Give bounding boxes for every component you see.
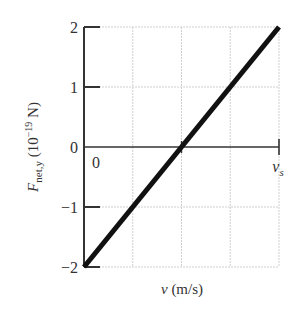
y-tick-label: 0 bbox=[70, 139, 78, 156]
y-tick-label: 1 bbox=[70, 79, 78, 96]
x-tick-label: vs bbox=[272, 158, 283, 178]
y-tick-label: −1 bbox=[61, 199, 78, 216]
y-tick-label: −2 bbox=[61, 259, 78, 276]
chart: 210−1−20vs v (m/s) Fnet,y (10−19 N) bbox=[0, 0, 301, 314]
x-axis-label: v (m/s) bbox=[161, 281, 203, 298]
x-tick-label: 0 bbox=[92, 154, 100, 171]
y-axis-label: Fnet,y (10−19 N) bbox=[23, 102, 44, 193]
y-tick-label: 2 bbox=[70, 19, 78, 36]
labels: v (m/s) Fnet,y (10−19 N) bbox=[23, 102, 203, 298]
